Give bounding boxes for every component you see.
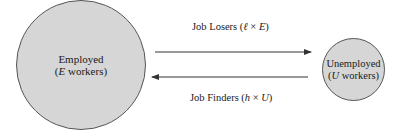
job-losers-label: Job Losers (ℓ × E) [192,21,269,32]
employed-subtitle: (E workers) [55,65,107,77]
unemployed-subtitle: (U workers) [328,70,379,82]
unemployed-node: Unemployed (U workers) [322,38,385,101]
employed-node: Employed (E workers) [16,0,146,130]
job-finders-label: Job Finders (h × U) [190,92,272,103]
employed-title: Employed [58,53,103,65]
unemployed-title: Unemployed [326,58,380,70]
